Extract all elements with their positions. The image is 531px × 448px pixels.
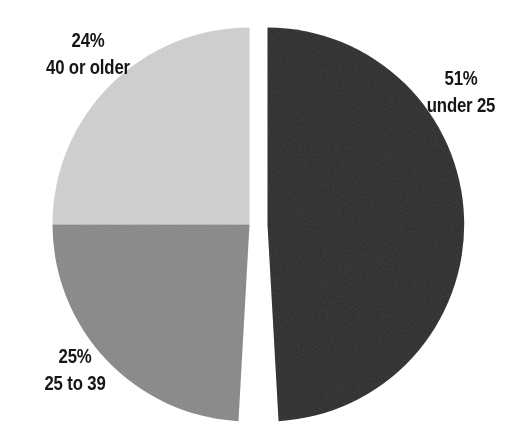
pie-label-25-to-39-category: 25 to 39 [19,371,131,396]
pie-label-25-to-39: 25% 25 to 39 [10,344,140,397]
pie-label-under-25-percent: 51% [407,66,515,91]
pie-label-40-or-older-category: 40 or older [28,55,148,80]
pie-chart: 24% 40 or older 51% under 25 25% 25 to 3… [0,0,531,448]
pie-label-under-25-category: under 25 [407,93,515,118]
pie-label-40-or-older-percent: 24% [28,28,148,53]
pie-label-under-25: 51% under 25 [398,66,524,119]
pie-label-40-or-older: 24% 40 or older [18,28,158,81]
pie-label-25-to-39-percent: 25% [19,344,131,369]
